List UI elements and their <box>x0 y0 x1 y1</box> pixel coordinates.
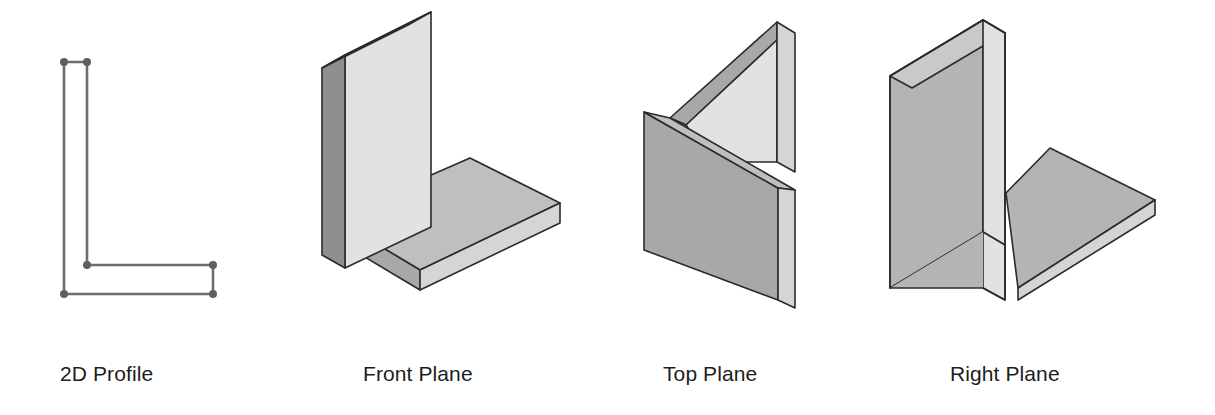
figure-front-plane <box>300 0 600 340</box>
right-plane-body <box>890 20 1155 300</box>
top-plane-solid-svg <box>600 0 900 340</box>
panel-right-thickness <box>983 20 1005 245</box>
right-plane-solid-svg <box>890 0 1215 340</box>
profile-outline <box>64 62 213 294</box>
vertex-point <box>83 261 91 269</box>
vertex-point <box>60 290 68 298</box>
lower-arm-right-thickness <box>778 188 795 308</box>
caption-top-plane: Top Plane <box>663 363 757 384</box>
caption-right-plane: Right Plane <box>950 363 1060 384</box>
vertex-point <box>83 58 91 66</box>
upper-arm-right-thickness <box>777 22 795 172</box>
caption-2d-profile: 2D Profile <box>60 363 153 384</box>
front-plane-solid-svg <box>300 0 600 340</box>
figure-right-plane <box>890 0 1215 340</box>
profile-sketch-svg <box>0 0 300 340</box>
top-plane-body <box>644 22 795 308</box>
front-plane-body <box>322 12 560 290</box>
illustration-canvas: 2D Profile Front Plane Top Plane Right P… <box>0 0 1215 415</box>
figure-top-plane <box>600 0 900 340</box>
vertex-point <box>209 261 217 269</box>
profile-vertices <box>60 58 217 298</box>
profile-path <box>64 62 213 294</box>
caption-front-plane: Front Plane <box>363 363 473 384</box>
vertex-point <box>209 290 217 298</box>
figure-2d-profile <box>0 0 300 340</box>
vertex-point <box>60 58 68 66</box>
wall-left-thickness-face <box>322 55 345 268</box>
